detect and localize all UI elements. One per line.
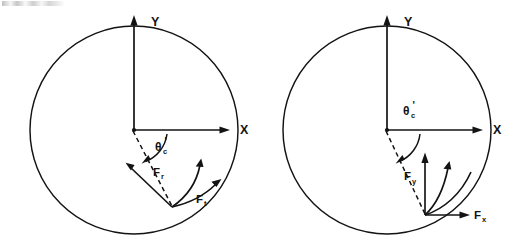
- svg-text:F: F: [404, 170, 411, 182]
- right-y-axis-arrowhead: [383, 15, 390, 26]
- left-panel: Y X θ c ' F r F t: [30, 15, 249, 234]
- right-horizontal-force-arrowhead: [460, 211, 471, 218]
- right-horizontal-force-label: F x: [474, 209, 487, 224]
- left-angle-label: θ c ': [155, 136, 167, 156]
- left-tangential-force-vector-outer: [172, 184, 216, 207]
- left-radial-force-vector: [130, 167, 172, 207]
- right-y-axis-label: Y: [404, 15, 413, 29]
- left-radial-force-label: F r: [153, 166, 164, 181]
- svg-text:y: y: [412, 177, 417, 186]
- left-y-axis-arrowhead: [130, 15, 137, 26]
- right-panel: Y X θ c ' F y F x: [283, 15, 502, 234]
- svg-text:θ: θ: [403, 104, 410, 118]
- left-tangential-force-outer-arrowhead: [211, 179, 221, 187]
- svg-text:r: r: [161, 172, 164, 181]
- svg-text:θ: θ: [155, 140, 162, 154]
- right-x-axis-label: X: [493, 123, 502, 137]
- svg-text:': ': [413, 100, 415, 111]
- left-x-axis-arrowhead: [220, 126, 231, 133]
- figure-root: Y X θ c ' F r F t: [0, 0, 522, 245]
- svg-text:': ': [165, 136, 167, 147]
- svg-text:c: c: [411, 111, 415, 120]
- left-x-axis-label: X: [240, 123, 249, 137]
- svg-text:x: x: [482, 215, 487, 224]
- svg-text:F: F: [153, 166, 160, 178]
- right-vertical-force-arrowhead: [421, 153, 428, 164]
- svg-text:F: F: [196, 193, 203, 205]
- right-resultant-force-arrowhead: [444, 161, 452, 170]
- left-tangential-force-label: F t: [196, 193, 207, 208]
- right-resultant-force-vector: [425, 168, 448, 215]
- left-tangential-force-inner-arrowhead: [196, 159, 204, 168]
- left-y-axis-label: Y: [151, 15, 160, 29]
- right-angle-label: θ c ': [403, 100, 415, 120]
- right-x-axis-arrowhead: [473, 126, 484, 133]
- svg-text:c: c: [163, 147, 167, 156]
- diagram-canvas: Y X θ c ' F r F t: [0, 0, 522, 245]
- svg-text:F: F: [474, 209, 481, 221]
